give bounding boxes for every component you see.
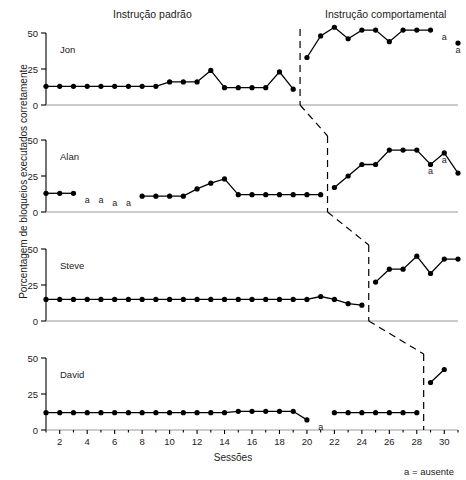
data-line [46,297,362,306]
absent-marker: a [428,166,433,176]
x-tick-label: 16 [247,436,258,447]
absent-marker: a [85,195,90,205]
subject-label: Alan [60,151,79,162]
y-tick-label: 50 [27,244,38,255]
chart-figure: Instrução padrão Instrução comportamenta… [0,0,466,480]
y-axis-label: Porcentagem de bloqueios executados corr… [18,62,29,302]
absent-marker: a [442,155,447,165]
x-tick-label: 20 [302,436,313,447]
absent-marker: a [455,45,460,55]
multiple-baseline-plot: 02550Jonaa02550Alanaaaaaa02550Steve02550… [0,0,466,480]
data-line [431,370,445,383]
data-line [334,150,458,187]
y-tick-label: 50 [27,353,38,364]
y-tick-label: 0 [33,425,38,436]
absent-marker: a [126,198,131,208]
y-tick-label: 25 [27,389,38,400]
y-tick-label: 25 [27,171,38,182]
subject-label: David [60,369,84,380]
x-tick-label: 4 [85,436,90,447]
absent-legend: a = ausente [404,466,454,477]
absent-marker: a [112,198,117,208]
y-tick-label: 25 [27,64,38,75]
x-tick-label: 18 [274,436,285,447]
y-tick-label: 0 [33,100,38,111]
subject-label: Jon [60,44,75,55]
x-tick-label: 6 [112,436,117,447]
y-tick-label: 25 [27,280,38,291]
x-tick-label: 30 [439,436,450,447]
subject-label: Steve [60,260,84,271]
phase-change-connector [300,105,327,136]
x-tick-label: 12 [192,436,203,447]
x-tick-label: 24 [357,436,368,447]
absent-marker: a [442,32,447,42]
x-tick-label: 22 [329,436,340,447]
x-tick-label: 10 [164,436,175,447]
x-tick-label: 26 [384,436,395,447]
phase-change-connector [328,212,369,245]
absent-marker: a [98,195,103,205]
phase-header-baseline: Instrução padrão [113,8,192,20]
x-tick-label: 2 [57,436,62,447]
x-tick-label: 8 [139,436,144,447]
phase-change-connector [369,321,424,354]
phase-header-treatment: Instrução comportamental [325,8,446,20]
x-tick-label: 28 [412,436,423,447]
x-tick-label: 14 [219,436,230,447]
x-axis-label: Sessões [0,452,466,463]
y-tick-label: 50 [27,28,38,39]
y-tick-label: 0 [33,207,38,218]
data-line [307,27,431,57]
y-tick-label: 50 [27,135,38,146]
y-tick-label: 0 [33,316,38,327]
